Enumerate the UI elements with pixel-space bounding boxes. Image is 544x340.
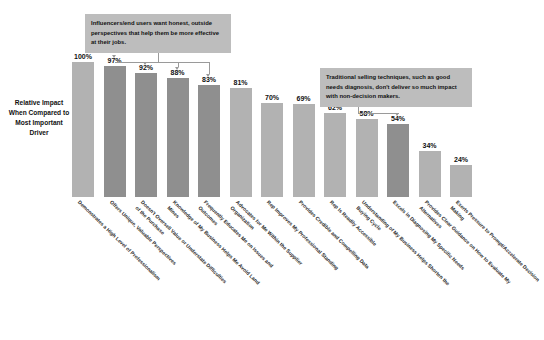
bar xyxy=(72,62,94,197)
bar-value-label: 100% xyxy=(66,53,100,60)
bar-value-label: 92% xyxy=(129,64,163,71)
arrow-head-icon xyxy=(206,74,210,77)
bar-value-label: 69% xyxy=(287,95,321,102)
bar-value-label: 81% xyxy=(224,79,258,86)
arrow-head-icon xyxy=(175,67,179,70)
connector-line xyxy=(158,53,159,62)
bar-group: 81% xyxy=(230,62,252,197)
bar xyxy=(135,73,157,197)
connector-line xyxy=(209,62,210,74)
bar-value-label: 24% xyxy=(444,156,478,163)
bar-value-label: 97% xyxy=(98,57,132,64)
category-axis: Demonstrates a High Level of Professiona… xyxy=(72,199,472,334)
connector-line xyxy=(358,113,398,114)
bar xyxy=(324,113,346,197)
bar-value-label: 70% xyxy=(255,94,289,101)
y-axis-title: Relative Impact When Compared to Most Im… xyxy=(8,98,70,138)
bar xyxy=(293,104,315,197)
bar xyxy=(167,78,189,197)
bar-value-label: 88% xyxy=(161,69,195,76)
bar xyxy=(230,88,252,197)
bar-group: 83% xyxy=(198,62,220,197)
bar-value-label: 34% xyxy=(413,142,447,149)
callout-influencers: Influencers/end users want honest, outsi… xyxy=(85,14,231,53)
bar-group: 92% xyxy=(135,62,157,197)
connector-line xyxy=(115,62,210,63)
arrow-head-icon xyxy=(395,113,399,116)
bar xyxy=(198,85,220,197)
bar-group: 97% xyxy=(104,62,126,197)
bar-value-label: 54% xyxy=(381,115,415,122)
bar-group: 100% xyxy=(72,62,94,197)
arrow-head-icon xyxy=(143,62,147,65)
bar-group: 69% xyxy=(293,62,315,197)
bar xyxy=(450,165,472,197)
bar xyxy=(356,119,378,197)
bar xyxy=(419,151,441,197)
bar xyxy=(104,66,126,197)
bar-group: 88% xyxy=(167,62,189,197)
bar xyxy=(387,124,409,197)
bar xyxy=(261,103,283,198)
callout-traditional: Traditional selling techniques, such as … xyxy=(320,68,472,107)
bar-value-label: 83% xyxy=(192,76,226,83)
arrow-head-icon xyxy=(112,55,116,58)
bar-group: 70% xyxy=(261,62,283,197)
